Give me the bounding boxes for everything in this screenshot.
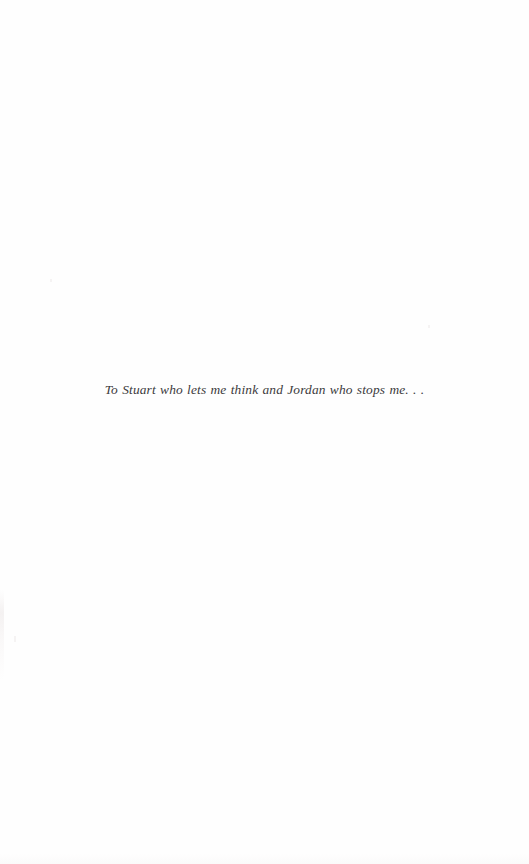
dedication-text: To Stuart who lets me think and Jordan w… <box>105 381 425 399</box>
scan-speck <box>14 636 16 642</box>
dedication-block: To Stuart who lets me think and Jordan w… <box>0 380 529 399</box>
scan-edge-artifact-left <box>0 590 4 680</box>
scan-speck <box>50 279 52 282</box>
scan-speck <box>428 325 430 328</box>
scan-edge-artifact-bottom <box>0 854 529 864</box>
scanned-page: To Stuart who lets me think and Jordan w… <box>0 0 529 864</box>
